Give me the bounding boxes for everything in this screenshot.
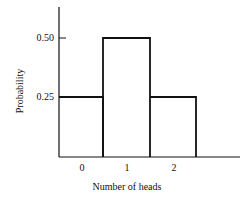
bar-1 [103, 38, 150, 157]
bar-2 [150, 97, 196, 157]
x-tick-label-2: 2 [164, 163, 184, 173]
bar-0 [59, 97, 103, 157]
chart-canvas [0, 0, 251, 206]
x-tick-label-0: 0 [72, 163, 92, 173]
y-tick-label-050: 0.50 [14, 33, 54, 43]
x-axis-label: Number of heads [67, 182, 187, 192]
x-tick-label-1: 1 [117, 163, 137, 173]
y-axis-label: Probability [15, 56, 25, 126]
